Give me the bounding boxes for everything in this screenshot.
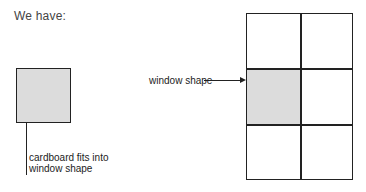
window-shape-arrow-line: [204, 80, 244, 81]
window-shape-label: window shape: [149, 75, 212, 86]
window-shape-cell: [247, 69, 300, 125]
cardboard-square: [16, 68, 71, 123]
cardboard-pointer-line: [26, 123, 27, 175]
heading: We have:: [14, 9, 66, 23]
cardboard-caption-line2: window shape: [29, 163, 109, 174]
grid-horizontal-divider-1: [247, 68, 352, 70]
grid-horizontal-divider-2: [247, 124, 352, 126]
cardboard-caption-line1: cardboard fits into: [29, 152, 109, 163]
window-grid: [246, 13, 353, 180]
cardboard-caption: cardboard fits into window shape: [29, 152, 109, 174]
grid-vertical-divider: [300, 14, 302, 179]
